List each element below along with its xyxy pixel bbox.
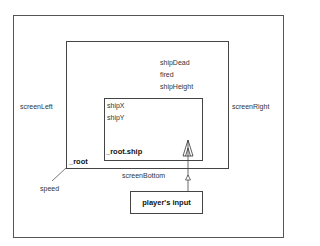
player-input-box: player's input [130, 191, 203, 214]
ship-icon [183, 140, 193, 156]
arrow-up-icon [186, 175, 191, 180]
player-input-label: player's input [142, 198, 190, 207]
